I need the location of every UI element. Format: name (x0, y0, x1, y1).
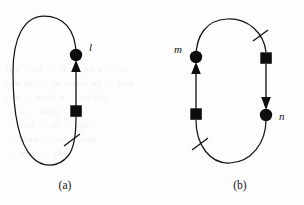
tick-mark-b-bottom (192, 138, 208, 150)
square-node-a[interactable] (70, 105, 82, 117)
loop-curve-b-top (196, 19, 266, 57)
node-label-m: m (174, 43, 182, 55)
arrowhead-up-to-m (191, 62, 201, 74)
circle-node-l[interactable] (70, 49, 82, 61)
arrowhead-up-to-l (71, 60, 81, 72)
square-node-b-right[interactable] (260, 52, 272, 64)
node-label-l: l (89, 41, 92, 53)
arrowhead-down-to-n (261, 97, 271, 110)
node-label-n: n (279, 110, 285, 122)
tick-mark-b-top (253, 30, 268, 41)
loop-curve-b-bottom (196, 120, 266, 163)
circle-node-m[interactable] (190, 51, 202, 63)
panel-a: (a) l (13, 16, 92, 192)
panel-b: (b) m n (174, 19, 285, 192)
circle-node-n[interactable] (260, 109, 272, 121)
panel-b-caption: (b) (233, 179, 247, 192)
panel-a-caption: (a) (59, 179, 72, 192)
square-node-b-left[interactable] (190, 108, 202, 120)
diagram-svg: (a) l (0, 0, 304, 205)
tick-mark-a (64, 134, 80, 146)
figure-container: the ...ed ... through a ... of can be ..… (0, 0, 304, 205)
loop-curve-a (13, 16, 76, 165)
